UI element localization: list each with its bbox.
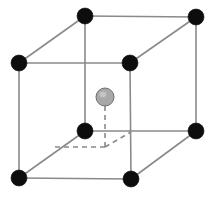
corner-atom-sphere <box>11 55 27 71</box>
lattice-canvas: Body-Centered Cubic (BCC) Unit Cell <box>0 0 211 200</box>
corner-atom-sphere <box>188 9 204 25</box>
atom-corner-front-bottom-left <box>11 170 27 186</box>
edge-bottom-front <box>19 178 131 179</box>
atom-center-body-atom <box>96 88 114 106</box>
atom-corner-back-bottom-right <box>188 123 204 139</box>
corner-atom-sphere <box>77 8 93 24</box>
atom-corner-front-top-left <box>11 55 27 71</box>
atom-corner-front-bottom-right <box>123 171 139 187</box>
atom-corner-back-bottom-left <box>77 123 93 139</box>
atom-corner-front-top-right <box>122 55 138 71</box>
atom-corner-back-top-left <box>77 8 93 24</box>
corner-atom-sphere <box>11 170 27 186</box>
corner-atom-sphere <box>122 55 138 71</box>
center-atom-sphere <box>96 88 114 106</box>
bcc-unit-cell-diagram: Body-Centered Cubic (BCC) Unit Cell <box>0 0 211 200</box>
center-atom-highlight <box>99 92 106 98</box>
atom-corner-back-top-right <box>188 9 204 25</box>
corner-atom-sphere <box>77 123 93 139</box>
corner-atom-sphere <box>123 171 139 187</box>
edge-vert-front-right <box>130 63 131 179</box>
corner-atom-sphere <box>188 123 204 139</box>
edge-top-back <box>85 16 196 17</box>
